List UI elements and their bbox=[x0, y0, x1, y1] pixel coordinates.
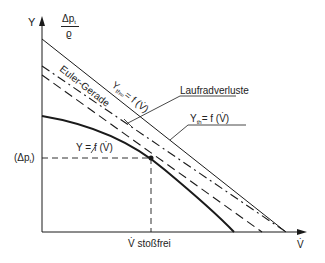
dp-text: Δp bbox=[62, 13, 74, 24]
y-curve-label: Y = f (V̇) bbox=[76, 143, 113, 153]
y-axis-label: Y bbox=[28, 17, 35, 28]
dpt-open: (Δp bbox=[14, 152, 30, 163]
yth-y: Y bbox=[190, 113, 197, 124]
yth-label: Yth= f (V̇) bbox=[190, 114, 229, 125]
euler-line bbox=[42, 39, 286, 232]
y-axis-arrow-icon bbox=[39, 16, 45, 26]
y-axis-alt-denominator: ϱ bbox=[66, 29, 72, 39]
dpt-close: ) bbox=[31, 152, 34, 163]
x-axis-arrow-icon bbox=[297, 229, 307, 235]
operating-point bbox=[149, 156, 154, 161]
laufrad-label: Laufradverluste bbox=[180, 86, 249, 96]
dpt-marker-label: (Δpt) bbox=[14, 153, 35, 164]
y-curve bbox=[42, 116, 234, 232]
yth-rest: = f (V̇) bbox=[202, 113, 230, 124]
yth-line bbox=[42, 75, 262, 232]
v-stossfrei-label: V̇ stoßfrei bbox=[128, 239, 171, 249]
diagram-canvas bbox=[0, 0, 325, 263]
x-axis-label: V̇ bbox=[297, 240, 304, 250]
yth-leader bbox=[170, 125, 246, 140]
y-axis-alt-numerator: Δpt bbox=[62, 14, 76, 25]
dp-sub: t bbox=[74, 19, 76, 25]
fraction-bar bbox=[61, 26, 79, 27]
